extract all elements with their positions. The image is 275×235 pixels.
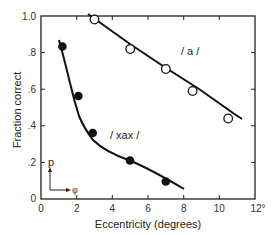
x-tick-label: 10 xyxy=(214,203,226,214)
series-xax-line xyxy=(59,40,184,189)
arrow-right-icon xyxy=(66,188,71,192)
y-tick-label: 0 xyxy=(30,193,36,204)
inset-phi-label: φ xyxy=(72,185,78,195)
y-tick-label: 1.0 xyxy=(22,11,36,22)
y-ticks xyxy=(41,53,255,163)
y-tick-label: .4 xyxy=(28,120,37,131)
x-tick-label: 8 xyxy=(181,203,187,214)
y-axis-label: Fraction correct xyxy=(11,72,23,148)
series-xax-label: / xax / xyxy=(110,129,140,141)
y-tick-label: .6 xyxy=(28,84,37,95)
inset-p-label: p xyxy=(48,156,54,168)
inset-axes xyxy=(50,170,68,190)
x-axis-label: Eccentricity (degrees) xyxy=(95,218,201,230)
series-a-label: / a / xyxy=(181,45,200,57)
chart: 0 2 4 6 8 10 12° 0 .2 .4 .6 .8 1.0 Eccen… xyxy=(0,0,275,235)
x-tick-label: 2 xyxy=(74,203,80,214)
y-tick-label: .2 xyxy=(28,157,37,168)
x-ticks xyxy=(77,16,220,199)
x-tick-label: 12° xyxy=(250,203,265,214)
plot-frame xyxy=(41,16,255,199)
x-tick-label: 4 xyxy=(110,203,116,214)
series-xax-markers xyxy=(58,42,170,186)
y-tick-label: .8 xyxy=(28,47,37,58)
x-tick-label: 0 xyxy=(38,203,44,214)
x-tick-label: 6 xyxy=(145,203,151,214)
